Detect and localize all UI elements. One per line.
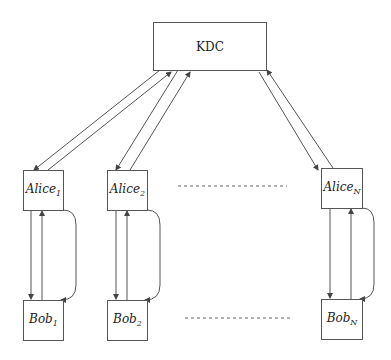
alice-n-label: AliceN [323,180,360,196]
bob-1-node: Bob1 [23,300,64,341]
bob-2-label: Bob2 [113,312,142,328]
alice-2-label: Alice2 [110,182,145,198]
arrow-alicen-to-kdc [267,70,333,168]
arrow-kdc-to-alice1 [34,70,160,170]
alice-1-label: Alice1 [26,182,61,198]
alice-2-node: Alice2 [107,170,148,211]
bob-n-node: BobN [321,299,363,340]
arrow-kdc-to-alice2 [116,70,178,170]
alice-1-node: Alice1 [23,170,64,211]
bob-1-label: Bob1 [29,312,58,328]
arrow-kdc-to-alicen [259,72,318,170]
alice-n-node: AliceN [321,168,363,209]
kdc-node: KDC [153,22,267,71]
arrow-alice2-loop-bob2 [145,210,160,300]
arrow-alice1-loop-bob1 [61,210,76,300]
kdc-label: KDC [196,40,224,54]
arrow-alice1-to-kdc [48,72,171,170]
arrow-alicen-loop-bobn [360,208,374,299]
bob-n-label: BobN [327,311,358,327]
bob-2-node: Bob2 [107,300,148,341]
